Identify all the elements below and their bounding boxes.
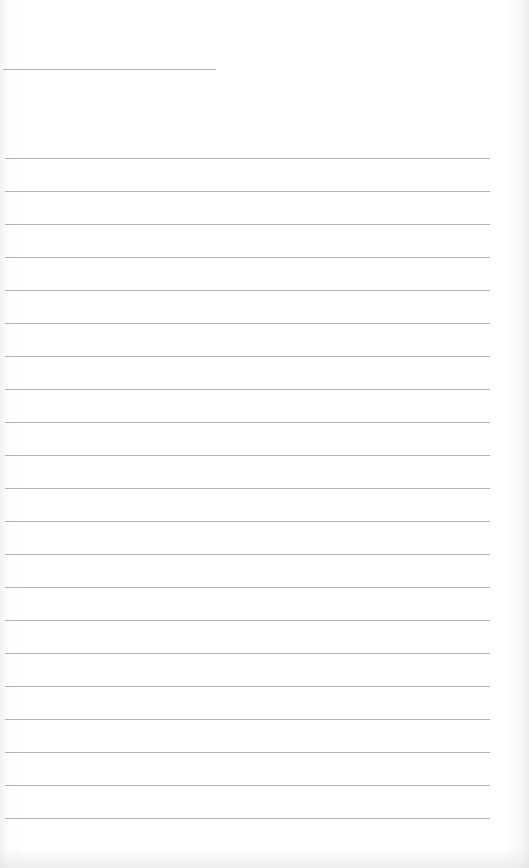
ruled-line <box>5 257 490 258</box>
header-line <box>3 69 216 70</box>
ruled-line <box>5 587 490 588</box>
ruled-line <box>5 554 490 555</box>
ruled-line <box>5 752 490 753</box>
ruled-line <box>5 818 490 819</box>
bottom-edge-shadow <box>0 848 529 868</box>
ruled-line <box>5 653 490 654</box>
ruled-line <box>5 422 490 423</box>
ruled-line <box>5 455 490 456</box>
ruled-line <box>5 488 490 489</box>
ruled-line <box>5 620 490 621</box>
ruled-line <box>5 785 490 786</box>
ruled-line <box>5 191 490 192</box>
ruled-line <box>5 356 490 357</box>
ruled-line <box>5 224 490 225</box>
ruled-line <box>5 323 490 324</box>
ruled-line <box>5 158 490 159</box>
lined-paper-page <box>0 0 529 868</box>
ruled-line <box>5 389 490 390</box>
ruled-line <box>5 686 490 687</box>
ruled-line <box>5 521 490 522</box>
ruled-line <box>5 290 490 291</box>
ruled-line <box>5 719 490 720</box>
